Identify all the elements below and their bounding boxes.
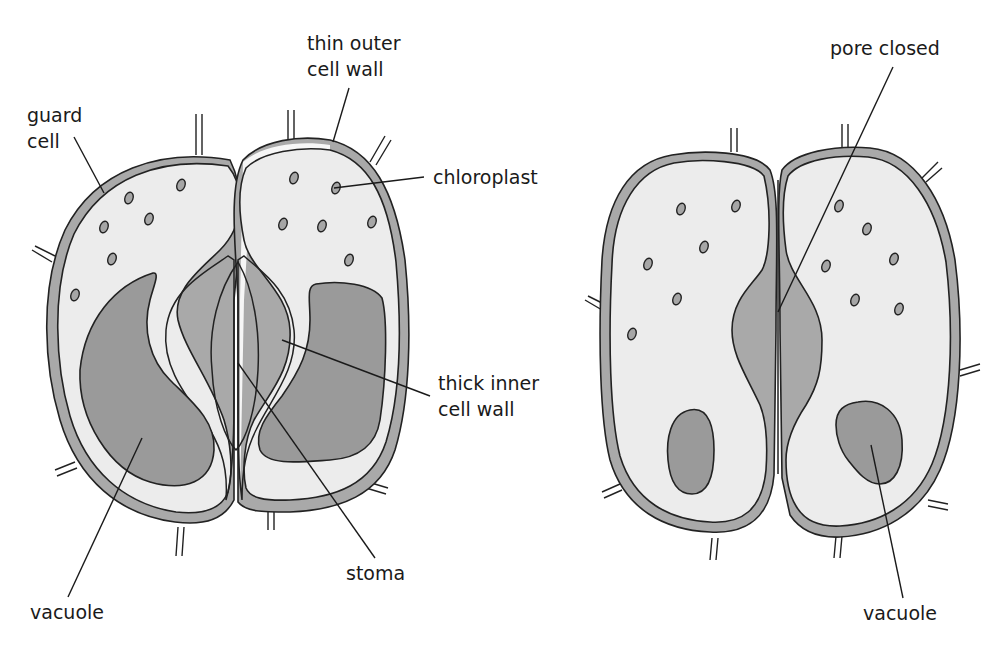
label-vacuole-open: vacuole [30, 601, 104, 623]
label-thin-outer-wall-line2: cell wall [307, 58, 383, 80]
vacuole-left-closed [668, 410, 714, 494]
label-chloroplast: chloroplast [433, 166, 538, 188]
open-stoma: guard cell thin outer cell wall chloropl… [27, 32, 539, 623]
label-vacuole-closed: vacuole [863, 602, 937, 624]
label-guard-cell-line2: cell [27, 130, 60, 152]
label-pore-closed: pore closed [830, 37, 940, 59]
guard-cell-right [234, 138, 409, 512]
label-thick-inner-wall-line2: cell wall [438, 398, 514, 420]
label-stoma: stoma [346, 562, 405, 584]
closed-stoma: pore closed vacuole [585, 37, 980, 624]
label-guard-cell-line1: guard [27, 104, 82, 126]
label-thick-inner-wall-line1: thick inner [438, 372, 539, 394]
stomata-diagram: guard cell thin outer cell wall chloropl… [0, 0, 997, 659]
label-thin-outer-wall-line1: thin outer [307, 32, 401, 54]
guard-cell-right-closed [779, 147, 960, 537]
guard-cell-left-closed [600, 152, 777, 532]
